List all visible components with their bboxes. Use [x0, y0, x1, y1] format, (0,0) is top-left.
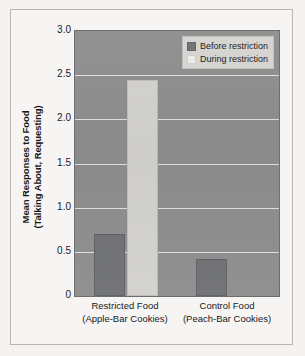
x-axis-label-group-0: Restricted Food(Apple-Bar Cookies): [74, 299, 176, 333]
gridline: [75, 75, 279, 76]
gridline: [75, 164, 279, 165]
chart-figure: Mean Responses to Food (Talking About, R…: [0, 0, 305, 356]
x-axis-label-line: Control Food: [176, 299, 278, 312]
y-axis-tick-3: 3.0: [40, 25, 71, 35]
y-axis-tick-0-5: 0.5: [40, 246, 71, 256]
bar-during-group-0: [127, 80, 158, 296]
bar-before-group-1: [196, 259, 227, 296]
y-axis-tick-labels: 00.51.01.52.02.53.0: [40, 30, 71, 295]
y-axis-tick-1-5: 1.5: [40, 158, 71, 168]
plot-area: Before restrictionDuring restriction: [74, 30, 280, 297]
x-axis-label-line: (Apple-Bar Cookies): [74, 312, 176, 325]
y-axis-tick-2: 2.0: [40, 113, 71, 123]
y-axis-tick-1: 1.0: [40, 202, 71, 212]
legend-label: During restriction: [200, 54, 268, 64]
y-axis-tick-0: 0: [40, 290, 71, 300]
y-axis-title-line1: Mean Responses to Food: [20, 111, 32, 224]
gridline: [75, 119, 279, 120]
chart-legend: Before restrictionDuring restriction: [182, 36, 274, 69]
legend-swatch-during-icon: [187, 55, 196, 64]
x-axis-label-group-1: Control Food(Peach-Bar Cookies): [176, 299, 278, 333]
legend-item-before: Before restriction: [187, 40, 268, 52]
legend-label: Before restriction: [200, 41, 268, 51]
y-axis-tick-2-5: 2.5: [40, 69, 71, 79]
x-axis-label-line: (Peach-Bar Cookies): [176, 312, 278, 325]
legend-item-during: During restriction: [187, 53, 268, 65]
bar-before-group-0: [94, 234, 125, 296]
legend-swatch-before-icon: [187, 42, 196, 51]
x-axis-label-line: Restricted Food: [74, 299, 176, 312]
x-axis-category-labels: Restricted Food(Apple-Bar Cookies)Contro…: [74, 299, 278, 333]
gridline: [75, 208, 279, 209]
